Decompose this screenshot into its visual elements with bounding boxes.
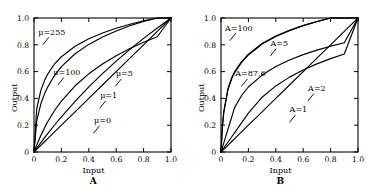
- panel-b-plot: 00.20.40.60.81.000.20.40.60.81.0A=100A=5…: [187, 0, 374, 194]
- leader-line: [270, 49, 276, 57]
- x-tick-label: 0.6: [110, 155, 122, 164]
- leader-line: [241, 79, 247, 87]
- leader-line: [100, 101, 106, 109]
- y-tick-label: 0.6: [204, 67, 216, 76]
- x-tick-label: 0.2: [242, 155, 254, 164]
- leader-line: [43, 37, 49, 45]
- panel-a-letter: A: [0, 176, 187, 186]
- y-tick-label: 0.2: [204, 121, 216, 130]
- curve-label: μ=5: [116, 69, 133, 78]
- x-tick-label: 0: [32, 155, 37, 164]
- curve-label: A=100: [224, 24, 253, 33]
- x-tick-label: 0: [219, 155, 224, 164]
- panel-a-mu-law: 00.20.40.60.81.000.20.40.60.81.0μ=255μ=1…: [0, 0, 187, 194]
- panel-b-x-axis-title: Input: [187, 166, 374, 175]
- panel-b-letter: B: [187, 176, 374, 186]
- x-tick-label: 1.0: [165, 155, 177, 164]
- panel-a-x-axis-title: Input: [0, 166, 187, 175]
- x-tick-label: 0.6: [297, 155, 309, 164]
- curve-label: A=1: [289, 105, 308, 114]
- curve-label: A=5: [269, 39, 288, 48]
- panel-b-a-law: 00.20.40.60.81.000.20.40.60.81.0A=100A=5…: [187, 0, 374, 194]
- x-tick-label: 0.4: [83, 155, 95, 164]
- x-tick-label: 0.8: [138, 155, 150, 164]
- companding-curves-figure: 00.20.40.60.81.000.20.40.60.81.0μ=255μ=1…: [0, 0, 374, 194]
- curve-label: A=2: [307, 84, 326, 93]
- y-tick-label: 0.6: [17, 67, 29, 76]
- curve-label: μ=255: [38, 28, 65, 37]
- y-tick-label: 1.0: [204, 14, 216, 23]
- curve-μ-0: [34, 18, 171, 152]
- x-tick-label: 0.2: [55, 155, 67, 164]
- panel-a-y-axis-title: Output: [10, 84, 19, 112]
- y-tick-label: 1.0: [17, 14, 29, 23]
- curve-label: A=87.6: [234, 69, 265, 78]
- curve-label: μ=0: [94, 116, 111, 125]
- y-tick-label: 0.8: [17, 41, 29, 50]
- y-tick-label: 0: [24, 148, 29, 157]
- panel-b-y-axis-title: Output: [197, 84, 206, 112]
- curve-A-1: [221, 18, 358, 152]
- leader-line: [58, 77, 64, 85]
- leader-line: [289, 115, 295, 123]
- y-tick-label: 0.2: [17, 121, 29, 130]
- x-tick-label: 1.0: [352, 155, 364, 164]
- leader-line: [94, 126, 100, 134]
- y-tick-label: 0: [211, 148, 216, 157]
- x-tick-label: 0.8: [325, 155, 337, 164]
- x-tick-label: 0.4: [270, 155, 282, 164]
- curve-label: μ=1: [100, 91, 117, 100]
- y-tick-label: 0.8: [204, 41, 216, 50]
- leader-line: [115, 79, 121, 87]
- curve-label: μ=100: [53, 68, 80, 77]
- leader-line: [308, 94, 314, 102]
- leader-line: [230, 33, 236, 41]
- panel-a-plot: 00.20.40.60.81.000.20.40.60.81.0μ=255μ=1…: [0, 0, 187, 194]
